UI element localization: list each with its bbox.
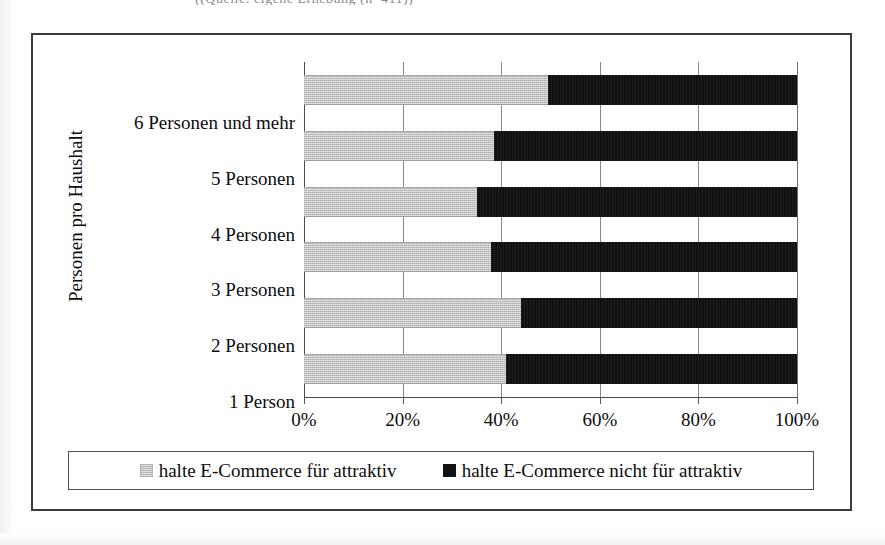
gridline-40% [501, 62, 502, 397]
bar-segment [304, 131, 494, 161]
y-axis-category-label: 6 Personen und mehr [65, 113, 295, 133]
chart-legend: halte E-Commerce für attraktivhalte E-Co… [68, 451, 814, 490]
x-axis-tick-label: 0% [269, 409, 339, 431]
plot-area [304, 62, 797, 397]
x-axis-tickmark [501, 397, 502, 404]
bar-segment [304, 75, 548, 105]
bar-segment [477, 187, 797, 217]
scan-edge-shading-left [0, 0, 14, 545]
y-axis-category-label: 2 Personen [65, 336, 295, 356]
x-axis-tick-label: 40% [466, 409, 536, 431]
y-axis-category-label: 5 Personen [65, 169, 295, 189]
x-axis-tickmark [600, 397, 601, 404]
gridline-60% [600, 62, 601, 397]
chart-frame: Personen pro Haushalt 6 Personen und meh… [31, 33, 852, 511]
legend-label: halte E-Commerce für attraktiv [159, 460, 397, 482]
y-axis-category-label: 4 Personen [65, 225, 295, 245]
bar-segment [548, 75, 797, 105]
legend-entry[interactable]: halte E-Commerce für attraktiv [140, 460, 397, 482]
bar-row [304, 242, 797, 272]
y-axis-category-label: 1 Person [65, 392, 295, 412]
x-axis-tick-label: 80% [663, 409, 733, 431]
bar-row [304, 75, 797, 105]
bar-row [304, 298, 797, 328]
x-axis-tick-label: 100% [762, 409, 832, 431]
y-axis-category-label: 3 Personen [65, 280, 295, 300]
bar-segment [304, 187, 477, 217]
gridline-100% [797, 62, 798, 397]
gridline-80% [698, 62, 699, 397]
scan-edge-shading-bottom [0, 533, 885, 545]
bar-segment [304, 354, 506, 384]
bar-segment [304, 298, 521, 328]
x-axis-tick-label: 60% [565, 409, 635, 431]
bar-segment [521, 298, 797, 328]
bar-segment [491, 242, 797, 272]
bar-segment [494, 131, 797, 161]
x-axis-tickmark [304, 397, 305, 404]
bar-row [304, 187, 797, 217]
legend-label: halte E-Commerce nicht für attraktiv [462, 460, 743, 482]
x-axis-tick-labels: 0%20%40%60%80%100% [304, 409, 798, 435]
x-axis-tickmark [698, 397, 699, 404]
bar-segment [506, 354, 797, 384]
x-axis-line [304, 397, 798, 398]
bar-row [304, 354, 797, 384]
gridline-0% [304, 62, 305, 397]
gridline-20% [403, 62, 404, 397]
light-gray-swatch [140, 464, 153, 477]
bar-segment [304, 242, 491, 272]
x-axis-tickmark [403, 397, 404, 404]
black-swatch [443, 464, 456, 477]
bar-row [304, 131, 797, 161]
legend-entry[interactable]: halte E-Commerce nicht für attraktiv [443, 460, 743, 482]
cropped-source-caption: ((Quelle: eigene Erhebung (n=411)) [195, 0, 515, 5]
y-axis-category-labels: 6 Personen und mehr5 Personen4 Personen3… [43, 95, 295, 405]
x-axis-tickmark [797, 397, 798, 404]
x-axis-tick-label: 20% [368, 409, 438, 431]
